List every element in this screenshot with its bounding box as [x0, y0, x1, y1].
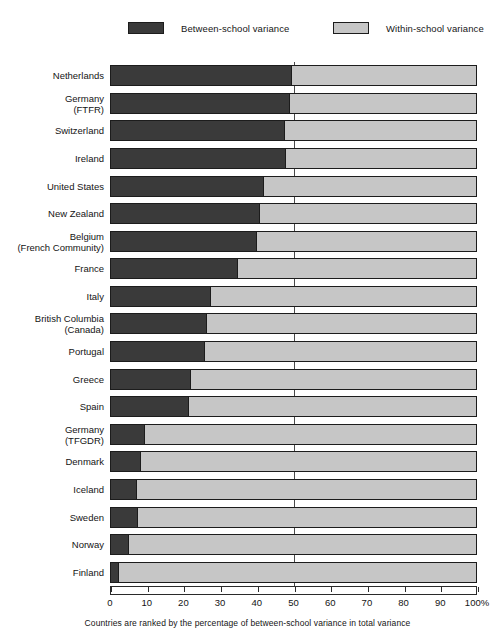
- bar-segment-within-school: [136, 479, 477, 500]
- axis-tick: [478, 587, 479, 592]
- bar-row: [110, 120, 477, 141]
- bar-row: [110, 313, 477, 334]
- category-label: Switzerland: [0, 125, 104, 136]
- axis-tick-label: 10: [141, 597, 152, 608]
- bar-segment-within-school: [206, 313, 477, 334]
- bar-row: [110, 396, 477, 417]
- stacked-bar-chart: Between-school variance Within-school va…: [0, 0, 495, 640]
- bar-segment-within-school: [128, 534, 477, 555]
- category-label: Belgium (French Community): [0, 231, 104, 253]
- bar-segment-within-school: [237, 258, 477, 279]
- axis-tick-label: 0: [107, 597, 112, 608]
- bar-segment-within-school: [188, 396, 477, 417]
- axis-tick-label: 100%: [465, 597, 489, 608]
- bar-segment-between-school: [110, 286, 211, 307]
- bar-row: [110, 93, 477, 114]
- bar-row: [110, 258, 477, 279]
- category-label: New Zealand: [0, 208, 104, 219]
- axis-tick-label: 90: [435, 597, 446, 608]
- legend-swatch-between-school-icon: [128, 22, 164, 34]
- axis-tick-label: 70: [362, 597, 373, 608]
- x-axis: [110, 586, 477, 595]
- bar-segment-within-school: [204, 341, 477, 362]
- category-label: France: [0, 263, 104, 274]
- bar-row: [110, 341, 477, 362]
- category-label: Netherlands: [0, 70, 104, 81]
- legend-swatch-within-school-icon: [333, 22, 369, 34]
- category-axis-labels: NetherlandsGermany (FTFR)SwitzerlandIrel…: [0, 62, 104, 586]
- bar-row: [110, 203, 477, 224]
- legend-item-within-school: Within-school variance: [333, 22, 484, 34]
- axis-tick: [295, 587, 296, 592]
- axis-tick: [441, 587, 442, 592]
- bar-row: [110, 231, 477, 252]
- axis-tick: [111, 587, 112, 592]
- axis-tick: [221, 587, 222, 592]
- bar-segment-between-school: [110, 148, 286, 169]
- axis-tick: [148, 587, 149, 592]
- bar-segment-within-school: [210, 286, 477, 307]
- bar-segment-between-school: [110, 65, 292, 86]
- legend-item-between-school: Between-school variance: [128, 22, 289, 34]
- bar-segment-between-school: [110, 534, 129, 555]
- bar-row: [110, 286, 477, 307]
- axis-tick-label: 20: [178, 597, 189, 608]
- bar-segment-between-school: [110, 451, 141, 472]
- bar-segment-between-school: [110, 93, 290, 114]
- bar-segment-between-school: [110, 203, 260, 224]
- category-label: Denmark: [0, 456, 104, 467]
- bar-segment-within-school: [118, 562, 477, 583]
- category-label: Italy: [0, 291, 104, 302]
- bar-row: [110, 176, 477, 197]
- bar-segment-between-school: [110, 120, 285, 141]
- bar-segment-between-school: [110, 369, 191, 390]
- legend-label-between-school: Between-school variance: [181, 23, 289, 34]
- bar-segment-within-school: [291, 65, 477, 86]
- legend-label-within-school: Within-school variance: [386, 23, 484, 34]
- axis-tick-label: 40: [252, 597, 263, 608]
- bar-segment-within-school: [137, 507, 477, 528]
- category-label: Germany (FTFR): [0, 93, 104, 115]
- axis-tick: [405, 587, 406, 592]
- axis-tick-label: 50: [288, 597, 299, 608]
- chart-legend: Between-school variance Within-school va…: [0, 22, 495, 42]
- plot-area: [110, 62, 477, 586]
- bar-segment-between-school: [110, 176, 264, 197]
- bar-row: [110, 65, 477, 86]
- bar-segment-within-school: [140, 451, 477, 472]
- bar-row: [110, 369, 477, 390]
- axis-tick-label: 80: [398, 597, 409, 608]
- bar-segment-between-school: [110, 507, 138, 528]
- bar-segment-between-school: [110, 424, 145, 445]
- bar-segment-between-school: [110, 258, 238, 279]
- bar-segment-within-school: [190, 369, 477, 390]
- bar-segment-between-school: [110, 313, 207, 334]
- bar-segment-between-school: [110, 479, 137, 500]
- bar-segment-between-school: [110, 396, 189, 417]
- bar-row: [110, 148, 477, 169]
- category-label: Greece: [0, 374, 104, 385]
- axis-tick-label: 60: [325, 597, 336, 608]
- bar-segment-within-school: [284, 120, 477, 141]
- bar-row: [110, 534, 477, 555]
- bar-segment-within-school: [144, 424, 477, 445]
- category-label: Ireland: [0, 153, 104, 164]
- axis-tick: [368, 587, 369, 592]
- category-label: British Columbia (Canada): [0, 313, 104, 335]
- bar-segment-within-school: [259, 203, 477, 224]
- bar-segment-within-school: [289, 93, 477, 114]
- category-label: Norway: [0, 539, 104, 550]
- category-label: Sweden: [0, 512, 104, 523]
- bar-row: [110, 451, 477, 472]
- category-label: Finland: [0, 567, 104, 578]
- bar-segment-within-school: [285, 148, 477, 169]
- bar-row: [110, 562, 477, 583]
- chart-caption: Countries are ranked by the percentage o…: [0, 618, 495, 628]
- bar-row: [110, 479, 477, 500]
- bar-row: [110, 507, 477, 528]
- axis-tick: [331, 587, 332, 592]
- bar-row: [110, 424, 477, 445]
- axis-tick: [258, 587, 259, 592]
- bar-segment-within-school: [263, 176, 477, 197]
- category-label: Spain: [0, 401, 104, 412]
